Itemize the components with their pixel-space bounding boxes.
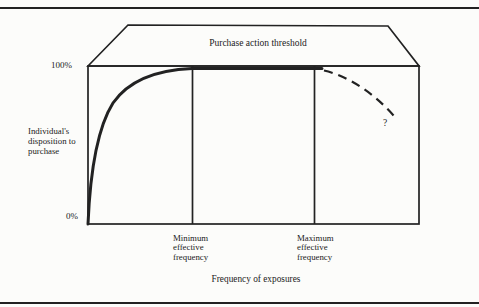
y-tick-0: 0% [46,212,78,222]
figure: Purchase action threshold 100% 0% Indivi… [0,0,479,307]
y-axis-label-line: purchase [28,147,76,157]
x-axis-label: Frequency of exposures [156,274,356,284]
disposition-curve [88,69,322,225]
question-mark-annotation: ? [383,118,387,128]
y-axis-label: Individual's disposition to purchase [28,127,76,156]
plot-area-border [88,66,419,224]
y-tick-100: 100% [40,61,72,71]
max-frequency-label: Maximum effective frequency [297,234,334,262]
threshold-title: Purchase action threshold [128,38,388,48]
decline-curve-dashed [324,71,394,117]
min-frequency-label-line: frequency [173,253,208,262]
max-frequency-label-line: frequency [297,253,334,262]
min-frequency-label: Minimum effective frequency [173,234,208,262]
